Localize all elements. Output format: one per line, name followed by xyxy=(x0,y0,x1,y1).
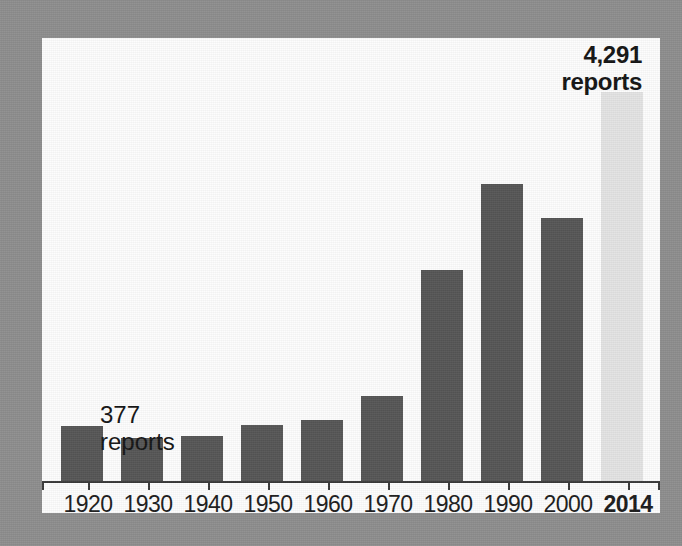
tick-mark xyxy=(658,481,660,490)
tick-label-1960: 1960 xyxy=(298,490,358,518)
callout-last-value: 4,291 reports xyxy=(561,42,642,96)
callout-first-unit: reports xyxy=(100,429,175,456)
tick-mark xyxy=(328,481,330,490)
bar-slot-1970 xyxy=(358,38,418,481)
tick-mark xyxy=(208,481,210,490)
callout-first-number: 377 xyxy=(100,402,175,429)
x-axis-ticks xyxy=(42,481,660,490)
bar-1970[interactable] xyxy=(361,396,403,481)
bar-2014[interactable] xyxy=(601,92,643,481)
tick-mark xyxy=(628,481,630,490)
bar-1980[interactable] xyxy=(421,270,463,481)
bar-slot-2014 xyxy=(598,38,658,481)
tick-label-1990: 1990 xyxy=(478,490,538,518)
tick-mark xyxy=(148,481,150,490)
tick-label-2000: 2000 xyxy=(538,490,598,518)
tick-label-1970: 1970 xyxy=(358,490,418,518)
bar-slot-1950 xyxy=(238,38,298,481)
bar-slot-1980 xyxy=(418,38,478,481)
callout-first-value: 377 reports xyxy=(100,402,175,456)
tick-label-1920: 1920 xyxy=(58,490,118,518)
tick-label-1980: 1980 xyxy=(418,490,478,518)
bar-slot-1960 xyxy=(298,38,358,481)
x-axis-labels: 1920 1930 1940 1950 1960 1970 1980 1990 … xyxy=(58,490,660,518)
bar-1920[interactable] xyxy=(61,426,103,481)
bar-1940[interactable] xyxy=(181,436,223,481)
chart-figure: 1920 1930 1940 1950 1960 1970 1980 1990 … xyxy=(42,38,660,513)
tick-mark xyxy=(508,481,510,490)
tick-label-1930: 1930 xyxy=(118,490,178,518)
tick-mark xyxy=(568,481,570,490)
tick-mark xyxy=(42,481,44,490)
tick-mark xyxy=(88,481,90,490)
bar-2000[interactable] xyxy=(541,218,583,481)
bar-1990[interactable] xyxy=(481,184,523,481)
tick-mark xyxy=(268,481,270,490)
tick-label-2014: 2014 xyxy=(598,490,658,518)
callout-last-number: 4,291 xyxy=(561,42,642,69)
callout-last-unit: reports xyxy=(561,69,642,96)
bar-1960[interactable] xyxy=(301,420,343,481)
tick-label-1950: 1950 xyxy=(238,490,298,518)
bar-1950[interactable] xyxy=(241,425,283,481)
bar-slot-1940 xyxy=(178,38,238,481)
tick-mark xyxy=(448,481,450,490)
tick-mark xyxy=(388,481,390,490)
tick-label-1940: 1940 xyxy=(178,490,238,518)
bar-slot-2000 xyxy=(538,38,598,481)
bar-slot-1990 xyxy=(478,38,538,481)
